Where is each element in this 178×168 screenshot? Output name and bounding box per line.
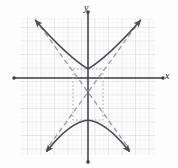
y-axis-label: y: [84, 3, 88, 13]
hyperbola-figure: y x: [0, 0, 178, 168]
graph-canvas: [0, 0, 178, 168]
x-axis-label: x: [165, 71, 169, 81]
